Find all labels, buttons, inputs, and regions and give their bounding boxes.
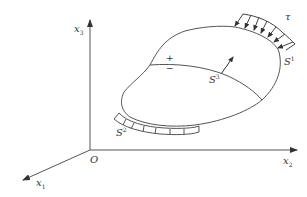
- x1-axis-label: x1: [36, 178, 45, 190]
- minus-sign: −: [166, 64, 174, 73]
- s3-normal-arrow: [221, 57, 233, 74]
- axes: [23, 20, 297, 180]
- x1-axis: [23, 150, 90, 180]
- diagram-graphics: [0, 0, 307, 197]
- plus-sign: +: [166, 54, 174, 63]
- s2-label: S2: [116, 127, 127, 138]
- body-outline: [122, 26, 281, 126]
- s1-label: S1: [284, 56, 295, 67]
- x3-axis-label: x3: [74, 24, 83, 36]
- s3-label: S3: [209, 74, 220, 85]
- traction-label: τ: [285, 12, 291, 22]
- origin-label: O: [90, 155, 98, 165]
- x2-axis-label: x2: [283, 156, 292, 168]
- diagram-canvas: x3 x2 x1 O S1 S2 S3 τ + −: [0, 0, 307, 197]
